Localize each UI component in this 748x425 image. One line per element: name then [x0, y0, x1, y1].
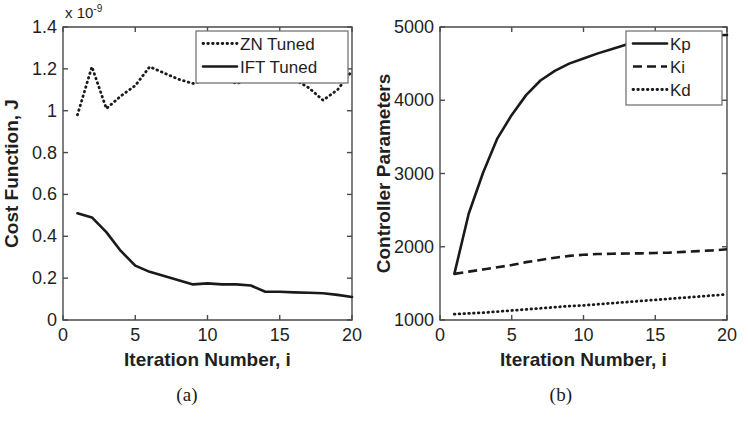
y-tick-label: 1000 [394, 310, 434, 330]
cost-function-chart: 0510152000.20.40.60.811.21.4Iteration Nu… [0, 0, 374, 380]
figure-container: 0510152000.20.40.60.811.21.4Iteration Nu… [0, 0, 748, 425]
y-tick-label: 1.4 [32, 17, 57, 37]
controller-parameters-chart: 0510152010002000300040005000Iteration Nu… [374, 0, 748, 380]
y-axis-title: Controller Parameters [374, 74, 394, 274]
y-tick-label: 3000 [394, 164, 434, 184]
legend-label-ki: Ki [670, 58, 685, 77]
subcaption-a: (a) [0, 384, 374, 406]
x-tick-label: 10 [197, 325, 217, 345]
chart-panel-a: 0510152000.20.40.60.811.21.4Iteration Nu… [0, 0, 374, 425]
series-line-ki [454, 249, 727, 274]
legend-label-zn-tuned: ZN Tuned [240, 35, 315, 54]
chart-panel-b: 0510152010002000300040005000Iteration Nu… [374, 0, 748, 425]
x-tick-label: 5 [130, 325, 140, 345]
y-tick-label: 1.2 [32, 59, 57, 79]
x-tick-label: 20 [717, 325, 737, 345]
series-line-ift-tuned [77, 213, 352, 297]
legend-label-kd: Kd [670, 81, 691, 100]
x-axis-title: Iteration Number, i [124, 349, 291, 370]
y-tick-label: 0.2 [32, 268, 57, 288]
subcaption-b: (b) [374, 384, 748, 406]
y-tick-label: 1 [47, 101, 57, 121]
y-tick-label: 0.8 [32, 143, 57, 163]
y-tick-label: 2000 [394, 237, 434, 257]
y-axis-exponent-power: -9 [93, 3, 102, 14]
x-tick-label: 5 [507, 325, 517, 345]
y-tick-label: 0 [47, 310, 57, 330]
legend-label-kp: Kp [670, 35, 691, 54]
y-axis-title: Cost Function, J [1, 99, 22, 248]
y-tick-label: 4000 [394, 90, 434, 110]
legend-label-ift-tuned: IFT Tuned [240, 58, 317, 77]
y-tick-label: 0.4 [32, 226, 57, 246]
y-tick-label: 5000 [394, 17, 434, 37]
x-tick-label: 15 [270, 325, 290, 345]
x-tick-label: 15 [645, 325, 665, 345]
x-tick-label: 0 [435, 325, 445, 345]
x-tick-label: 0 [58, 325, 68, 345]
x-tick-label: 20 [342, 325, 362, 345]
x-tick-label: 10 [573, 325, 593, 345]
x-axis-title: Iteration Number, i [500, 349, 667, 370]
y-tick-label: 0.6 [32, 184, 57, 204]
series-line-kd [454, 294, 727, 314]
y-axis-exponent: x 10-9 [65, 3, 103, 21]
